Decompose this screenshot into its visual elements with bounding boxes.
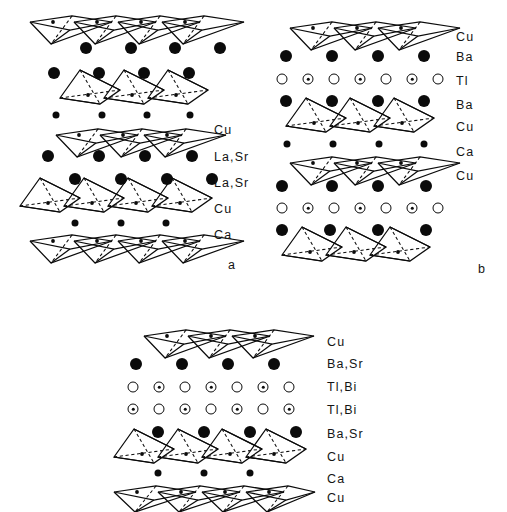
panel-a-label-4: Ca: [214, 229, 232, 242]
atom-tlbi-open: [206, 404, 217, 415]
atom-ba: [280, 50, 292, 62]
atom-ca: [330, 141, 337, 148]
panel-c-label-6: Ca: [327, 473, 345, 486]
atom-tl-dotted: [303, 203, 314, 214]
atom-tlbi-dotted: [258, 382, 269, 393]
atom-tlbi-dotted: [284, 404, 295, 415]
atom-tl-open: [433, 203, 444, 214]
panel-b-letter: b: [478, 262, 485, 276]
panel-a-pyramid-row-up-2: [16, 172, 216, 216]
atom-tlbi-dotted: [206, 382, 217, 393]
atom-ca: [53, 112, 60, 119]
atom-lasr: [186, 150, 198, 162]
atom-lasr: [42, 150, 54, 162]
panel-a: Cu La,Sr La,Sr Cu Ca a: [0, 0, 254, 285]
panel-a-letter: a: [228, 258, 235, 272]
atom-tlbi-dotted: [128, 404, 139, 415]
atom-ca: [187, 112, 194, 119]
atom-tlbi-open: [180, 382, 191, 393]
atom-ba: [418, 50, 430, 62]
atom-tl-open: [277, 203, 288, 214]
panel-c-pyramid-row-up-1: [110, 423, 315, 467]
panel-b: Cu Ba Tl Ba Cu Ca Cu b: [254, 0, 507, 285]
atom-basr: [222, 358, 234, 370]
panel-b-label-4: Cu: [456, 121, 474, 134]
atom-ba: [372, 50, 384, 62]
atom-basr: [130, 358, 142, 370]
panel-c-label-1: Ba,Sr: [327, 358, 364, 371]
panel-a-label-1: La,Sr: [214, 151, 249, 164]
atom-basr: [268, 358, 280, 370]
atom-tl-open: [381, 203, 392, 214]
panel-c-pyramid-row-down-2: [110, 482, 315, 512]
atom-tlbi-dotted: [232, 404, 243, 415]
atom-ca: [247, 470, 254, 477]
atom-ca: [163, 220, 170, 227]
panel-a-label-2: La,Sr: [214, 177, 249, 190]
atom-tlbi-open: [284, 382, 295, 393]
panel-b-label-5: Ca: [456, 146, 474, 159]
panel-b-pyramid-row-up-2: [278, 221, 443, 265]
atom-tlbi-dotted: [154, 382, 165, 393]
atom-ba: [420, 180, 432, 192]
panel-a-label-3: Cu: [214, 203, 232, 216]
atom-ca: [99, 112, 106, 119]
panel-b-pyramid-row-up-1: [282, 92, 442, 136]
panel-b-label-1: Ba: [456, 51, 474, 64]
atom-ba: [372, 180, 384, 192]
atom-ba: [276, 180, 288, 192]
atom-tl-dotted: [303, 74, 314, 85]
atom-ba: [326, 180, 338, 192]
atom-lasr: [169, 42, 181, 54]
atom-lasr: [139, 150, 151, 162]
atom-lasr: [93, 150, 105, 162]
atom-lasr: [80, 42, 92, 54]
panel-c-label-4: Ba,Sr: [327, 428, 364, 441]
atom-ca: [155, 470, 162, 477]
atom-tl-open: [381, 74, 392, 85]
panel-c: Cu Ba,Sr Tl,Bi Tl,Bi Ba,Sr Cu Ca Cu: [110, 310, 410, 499]
atom-tlbi-dotted: [180, 404, 191, 415]
atom-ca: [284, 141, 291, 148]
atom-tl-dotted: [355, 203, 366, 214]
panel-a-pyramid-row-up-1: [56, 64, 216, 108]
atom-lasr: [125, 42, 137, 54]
atom-tlbi-open: [258, 404, 269, 415]
panel-c-label-5: Cu: [327, 451, 345, 464]
panel-b-label-2: Tl: [456, 75, 469, 88]
panel-c-label-0: Cu: [327, 336, 345, 349]
panel-b-pyramid-row-down-1: [286, 18, 436, 60]
atom-tlbi-open: [232, 382, 243, 393]
panel-b-label-6: Cu: [456, 170, 474, 183]
atom-tl-open: [329, 203, 340, 214]
atom-ca: [421, 141, 428, 148]
atom-ca: [118, 220, 125, 227]
atom-ca: [144, 112, 151, 119]
atom-ca: [201, 470, 208, 477]
atom-ca: [376, 141, 383, 148]
atom-tlbi-open: [154, 404, 165, 415]
atom-ba: [326, 50, 338, 62]
atom-tl-dotted: [407, 74, 418, 85]
atom-tlbi-open: [128, 382, 139, 393]
panel-b-label-3: Ba: [456, 99, 474, 112]
atom-tl-open: [433, 74, 444, 85]
atom-lasr: [214, 42, 226, 54]
panel-a-label-0: Cu: [214, 124, 232, 137]
panel-c-label-3: Tl,Bi: [327, 404, 358, 417]
panel-c-label-2: Tl,Bi: [327, 381, 358, 394]
atom-tl-open: [329, 74, 340, 85]
atom-tl-open: [277, 74, 288, 85]
atom-basr: [176, 358, 188, 370]
atom-tl-dotted: [407, 203, 418, 214]
atom-tl-dotted: [355, 74, 366, 85]
panel-c-label-7: Cu: [327, 492, 345, 505]
panel-a-pyramid-row-down-3: [26, 231, 211, 273]
panel-b-label-0: Cu: [456, 31, 474, 44]
atom-ca: [72, 220, 79, 227]
